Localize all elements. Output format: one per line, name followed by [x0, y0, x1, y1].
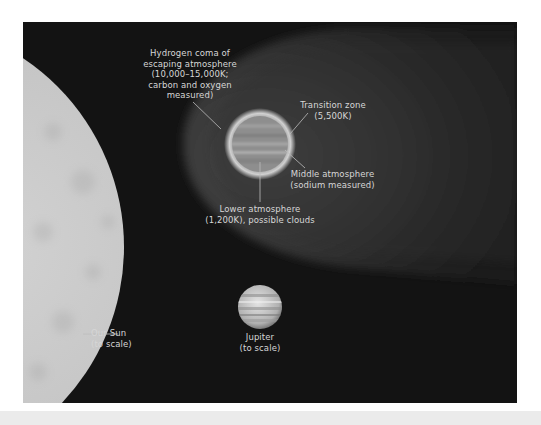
- sun-label: Our Sun (to scale): [91, 328, 151, 349]
- jupiter-label: Jupiter (to scale): [230, 332, 290, 353]
- bottom-band: [0, 411, 541, 425]
- transition-zone-label: Transition zone (5,500K): [293, 100, 373, 121]
- diagram-panel: Hydrogen coma of escaping atmosphere (10…: [23, 22, 517, 403]
- hydrogen-coma-label: Hydrogen coma of escaping atmosphere (10…: [131, 48, 249, 101]
- lower-atmosphere-label: Lower atmosphere (1,200K), possible clou…: [195, 204, 325, 225]
- middle-atmosphere-label: Middle atmosphere (sodium measured): [285, 169, 380, 190]
